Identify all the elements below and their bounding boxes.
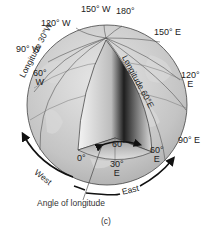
panel-label: (c)	[101, 216, 111, 226]
east-arrow	[86, 193, 120, 195]
label-150w: 150° W	[81, 5, 111, 14]
label-180: 180°	[116, 7, 135, 16]
label-angle-60: 60°	[112, 140, 126, 149]
angle-of-longitude-caption: Angle of longitude	[37, 198, 105, 208]
label-60e: 60° E	[150, 146, 164, 164]
longitude-globe-figure: 150° W 180° 120° W 150° E 90° W 60° W 12…	[0, 0, 210, 244]
label-90e: 90° E	[178, 136, 200, 145]
label-150e: 150° E	[154, 28, 181, 37]
label-120e: 120° E	[181, 71, 200, 89]
label-0: 0°	[77, 154, 86, 163]
label-30e: 30° E	[110, 160, 124, 178]
label-60w: 60° W	[33, 69, 47, 87]
